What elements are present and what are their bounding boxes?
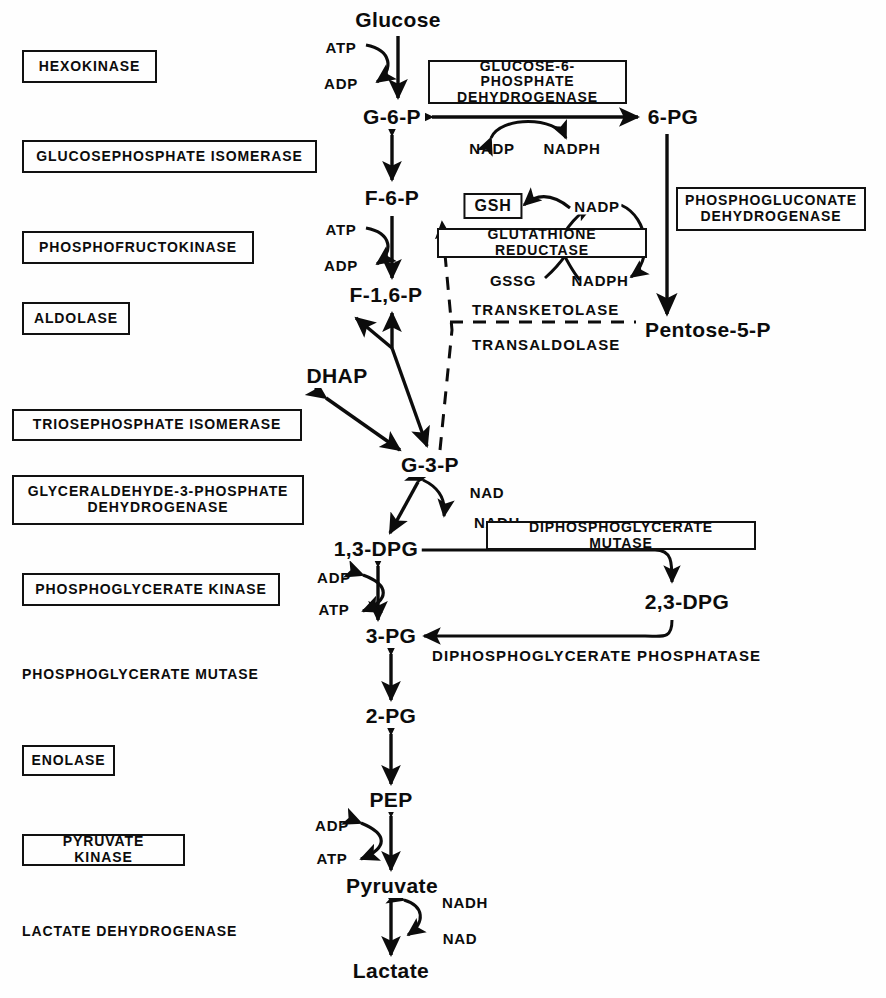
metabolite-pyruvate: Pyruvate	[342, 874, 442, 898]
cofactor-atp-pgk: ATP	[319, 601, 350, 618]
cofactor-nadp-gr: NADP	[572, 198, 621, 215]
metabolite-f-1-6-p: F-1,6-P	[346, 283, 427, 307]
enzyme-label: PHOSPHOGLYCERATE MUTASE	[22, 666, 259, 682]
cofactor-atp-pk: ATP	[317, 850, 348, 867]
enzyme-phosphoglycerate-kinase[interactable]: PHOSPHOGLYCERATE KINASE	[22, 573, 280, 606]
metabolite-g-6-p: G-6-P	[359, 105, 425, 129]
cofactor-adp-pgk: ADP	[317, 569, 351, 586]
enzyme-label: TRIOSEPHOSPHATE ISOMERASE	[33, 417, 282, 433]
metabolite-dhap: DHAP	[302, 364, 371, 388]
cofactor-adp-pk: ADP	[315, 817, 349, 834]
metabolite-pep: PEP	[365, 788, 416, 812]
metabolite-1-3-dpg: 1,3-DPG	[331, 537, 422, 561]
enzyme-phosphoglycerate-mutase: PHOSPHOGLYCERATE MUTASE	[22, 667, 259, 683]
cofactor-adp-hexokinase: ADP	[324, 75, 358, 92]
cofactor-atp-pfk: ATP	[326, 221, 357, 238]
enzyme-lactate-dehydrogenase: LACTATE DEHYDROGENASE	[22, 924, 237, 940]
enzyme-label: PYRUVATE KINASE	[32, 834, 175, 865]
enzyme-aldolase[interactable]: ALDOLASE	[22, 302, 130, 335]
arrow-atp-adp-hexokinase	[366, 45, 388, 82]
enzyme-phosphofructokinase[interactable]: PHOSPHOFRUCTOKINASE	[22, 231, 254, 264]
enzyme-phosphogluconate-dehydrogenase[interactable]: PHOSPHOGLUCONATE DEHYDROGENASE	[676, 187, 866, 231]
enzyme-diphosphoglycerate-mutase[interactable]: DIPHOSPHOGLYCERATE MUTASE	[486, 521, 756, 550]
enzyme-label: GLUTATHIONE REDUCTASE	[447, 227, 637, 258]
arrow-dhap-g3p	[326, 398, 400, 450]
cofactor-nad-gapdh: NAD	[470, 484, 505, 501]
enzyme-glyceraldehyde-3-phosphate-dehydrogenase[interactable]: GLYCERALDEHYDE-3-PHOSPHATE DEHYDROGENASE	[12, 475, 304, 525]
enzyme-pyruvate-kinase[interactable]: PYRUVATE KINASE	[22, 834, 185, 866]
metabolite-g-3-p: G-3-P	[397, 453, 463, 477]
path-label-diphosphoglycerate-phosphatase: DIPHOSPHOGLYCERATE PHOSPHATASE	[432, 647, 761, 664]
cofactor-adp-pfk: ADP	[324, 257, 358, 274]
enzyme-label: PHOSPHOFRUCTOKINASE	[39, 240, 237, 256]
cofactor-nadph-gr: NADPH	[572, 272, 629, 289]
arrow-atp-adp-pfk	[366, 228, 388, 264]
cofactor-nadph-g6pd: NADPH	[544, 140, 601, 157]
arrow-13dpg-to-23dpg	[421, 550, 672, 582]
enzyme-enolase[interactable]: ENOLASE	[22, 745, 115, 776]
arrow-nad-nadh-gapdh	[423, 480, 444, 516]
metabolite-2-3-dpg: 2,3-DPG	[641, 590, 734, 614]
enzyme-glutathione-reductase[interactable]: GLUTATHIONE REDUCTASE	[437, 228, 647, 258]
cofactor-gssg-gr: GSSG	[490, 272, 536, 289]
arrow-g3p-13dpg	[390, 482, 418, 533]
arrow-f16p-to-g3p	[392, 348, 427, 446]
cofactor-nad-ldh: NAD	[443, 930, 478, 947]
arc-nadp-to-gsh	[524, 197, 570, 208]
enzyme-triosephosphate-isomerase[interactable]: TRIOSEPHOSPHATE ISOMERASE	[12, 409, 302, 441]
enzyme-hexokinase[interactable]: HEXOKINASE	[22, 50, 157, 83]
metabolite-lactate: Lactate	[349, 959, 433, 983]
metabolite-3-pg: 3-PG	[362, 624, 421, 648]
arrow-nadh-nad-ldh	[404, 900, 420, 935]
metabolite-glucose: Glucose	[355, 8, 441, 32]
arrow-adp-atp-pgk	[363, 575, 383, 611]
enzyme-label: PHOSPHOGLUCONATE DEHYDROGENASE	[685, 193, 857, 224]
cofactor-nadh-ldh: NADH	[442, 894, 488, 911]
cofactor-atp-hexokinase: ATP	[326, 39, 357, 56]
enzyme-label: ENOLASE	[32, 753, 106, 769]
metabolite-pentose-5-p: Pentose-5-P	[641, 318, 775, 342]
enzyme-label: DIPHOSPHOGLYCERATE MUTASE	[496, 520, 746, 551]
arc-nadp-nadph-g6pd	[491, 122, 566, 139]
enzyme-label: HEXOKINASE	[39, 59, 141, 75]
enzyme-label: LACTATE DEHYDROGENASE	[22, 923, 237, 939]
metabolite-2-pg: 2-PG	[362, 704, 421, 728]
enzyme-label: GLUCOSEPHOSPHATE ISOMERASE	[36, 149, 303, 165]
node-label: GSH	[474, 197, 511, 214]
arrow-adp-atp-pk	[361, 823, 381, 859]
arrow-23dpg-to-3pg	[424, 620, 672, 636]
node-gsh[interactable]: GSH	[463, 193, 522, 219]
enzyme-label: GLUCOSE-6-PHOSPHATE DEHYDROGENASE	[438, 59, 617, 106]
enzyme-label: PHOSPHOGLYCERATE KINASE	[35, 582, 267, 598]
pathway-diagram-canvas: HEXOKINASE GLUCOSEPHOSPHATE ISOMERASE PH…	[0, 0, 886, 998]
metabolite-f-6-p: F-6-P	[361, 186, 424, 210]
enzyme-glucose-6-phosphate-dehydrogenase[interactable]: GLUCOSE-6-PHOSPHATE DEHYDROGENASE	[428, 60, 627, 104]
path-label-transaldolase: TRANSALDOLASE	[470, 336, 622, 353]
cofactor-nadp-g6pd: NADP	[469, 140, 514, 157]
path-label-transketolase: TRANSKETOLASE	[470, 301, 621, 318]
enzyme-label: GLYCERALDEHYDE-3-PHOSPHATE DEHYDROGENASE	[28, 484, 289, 515]
enzyme-label: ALDOLASE	[34, 311, 118, 327]
enzyme-glucosephosphate-isomerase[interactable]: GLUCOSEPHOSPHATE ISOMERASE	[22, 140, 317, 173]
arrow-f16p-to-dhap	[356, 318, 392, 348]
metabolite-6-pg: 6-PG	[644, 105, 703, 129]
